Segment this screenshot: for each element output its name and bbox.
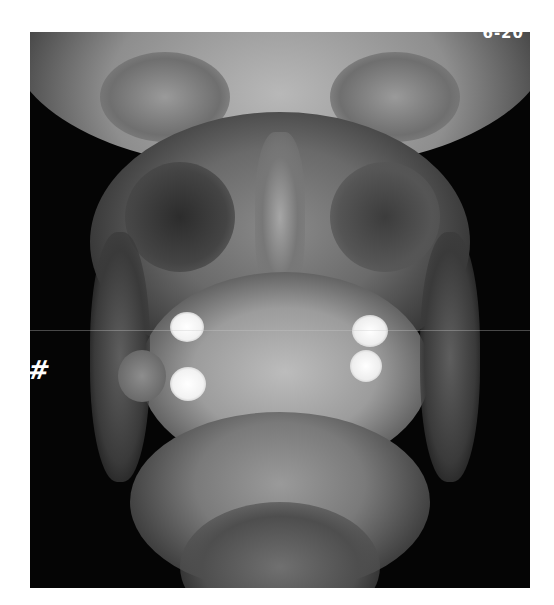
filling-lower-right [350,350,382,382]
left-molar-crown [118,350,166,402]
xray-image: 6-20 [30,32,530,588]
scan-line [30,330,530,331]
filling-upper-right [352,315,388,347]
side-marker: # [26,355,52,385]
right-ramus [420,232,480,482]
filling-lower-left [170,367,206,401]
corner-label: 6-20 [482,32,524,42]
filling-upper-left [170,312,204,342]
left-maxillary-sinus [125,162,235,272]
right-maxillary-sinus [330,162,440,272]
